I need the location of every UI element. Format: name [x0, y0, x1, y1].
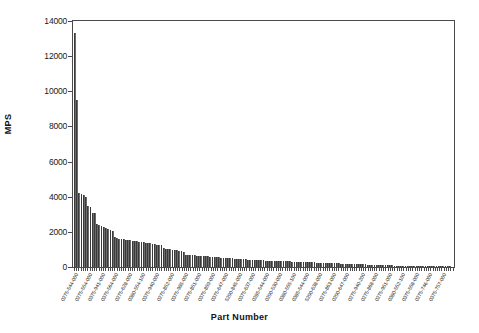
x-tick-mark [356, 268, 357, 271]
x-tick-mark [419, 268, 420, 271]
y-tick-label: 2000 [49, 228, 67, 236]
x-tick-mark [354, 268, 355, 271]
x-tick-mark [439, 268, 440, 271]
x-tick-mark [291, 268, 292, 271]
x-tick-mark [273, 268, 274, 271]
x-tick-mark [435, 268, 436, 271]
x-tick-mark [224, 268, 225, 271]
x-tick-mark [390, 268, 391, 271]
x-tick-mark [311, 268, 312, 271]
x-tick-mark [316, 268, 317, 271]
x-tick-mark [383, 268, 384, 271]
x-tick-mark [408, 268, 409, 271]
x-tick-mark [238, 268, 239, 271]
x-tick-mark [309, 268, 310, 271]
x-tick-mark [453, 268, 454, 271]
x-tick-mark [287, 268, 288, 271]
x-tick-mark [412, 268, 413, 271]
x-tick-mark [450, 268, 451, 271]
x-tick-mark [190, 268, 191, 271]
x-tick-mark [305, 268, 306, 271]
x-tick-mark [108, 268, 109, 271]
x-axis-title: Part Number [0, 312, 479, 322]
x-tick-mark [134, 268, 135, 271]
x-tick-mark [170, 268, 171, 271]
x-tick-mark [289, 268, 290, 271]
y-axis: 02000400060008000100001200014000 [0, 0, 72, 288]
x-tick-mark [363, 268, 364, 271]
x-tick-mark [258, 268, 259, 271]
x-tick-mark [139, 268, 140, 271]
x-tick-mark [81, 268, 82, 271]
x-tick-mark [372, 268, 373, 271]
x-tick-mark [336, 268, 337, 271]
x-axis-labels: 0275-544-0000275-554-0000375-941-0000375… [72, 272, 455, 312]
x-tick-mark [123, 268, 124, 271]
x-tick-mark [92, 268, 93, 271]
x-tick-mark [318, 268, 319, 271]
x-tick-mark [217, 268, 218, 271]
x-tick-mark [320, 268, 321, 271]
x-tick-mark [85, 268, 86, 271]
x-tick-mark [226, 268, 227, 271]
x-tick-mark [177, 268, 178, 271]
x-tick-mark [334, 268, 335, 271]
x-tick-mark [282, 268, 283, 271]
x-tick-mark [130, 268, 131, 271]
x-tick-mark [329, 268, 330, 271]
y-tick-label: 8000 [49, 122, 67, 130]
x-tick-mark [278, 268, 279, 271]
x-tick-mark [186, 268, 187, 271]
x-tick-mark [175, 268, 176, 271]
bar [449, 266, 451, 267]
x-tick-mark [101, 268, 102, 271]
x-tick-mark [211, 268, 212, 271]
x-tick-mark [262, 268, 263, 271]
x-tick-mark [240, 268, 241, 271]
x-tick-mark [94, 268, 95, 271]
x-tick-mark [374, 268, 375, 271]
x-tick-mark [323, 268, 324, 271]
x-tick-mark [213, 268, 214, 271]
x-tick-mark [433, 268, 434, 271]
x-tick-mark [307, 268, 308, 271]
x-tick-mark [406, 268, 407, 271]
x-tick-mark [112, 268, 113, 271]
x-tick-mark [199, 268, 200, 271]
x-tick-mark [233, 268, 234, 271]
x-tick-mark [155, 268, 156, 271]
x-tick-mark [417, 268, 418, 271]
x-tick-mark [298, 268, 299, 271]
x-tick-mark [117, 268, 118, 271]
x-tick-mark [430, 268, 431, 271]
x-tick-mark [403, 268, 404, 271]
x-tick-mark [168, 268, 169, 271]
x-tick-mark [231, 268, 232, 271]
x-tick-mark [426, 268, 427, 271]
x-tick-mark [173, 268, 174, 271]
x-tick-mark [397, 268, 398, 271]
x-tick-mark [121, 268, 122, 271]
x-tick-mark [99, 268, 100, 271]
x-tick-mark [119, 268, 120, 271]
x-tick-mark [103, 268, 104, 271]
x-tick-mark [188, 268, 189, 271]
x-tick-mark [157, 268, 158, 271]
x-tick-mark [327, 268, 328, 271]
x-tick-mark [338, 268, 339, 271]
x-tick-mark [264, 268, 265, 271]
x-tick-mark [365, 268, 366, 271]
x-tick-mark [222, 268, 223, 271]
x-tick-mark [244, 268, 245, 271]
x-tick-mark [343, 268, 344, 271]
x-tick-mark [437, 268, 438, 271]
x-tick-mark [446, 268, 447, 271]
x-tick-mark [202, 268, 203, 271]
x-tick-mark [359, 268, 360, 271]
x-tick-mark [110, 268, 111, 271]
x-tick-mark [285, 268, 286, 271]
x-tick-mark [388, 268, 389, 271]
x-tick-mark [90, 268, 91, 271]
x-tick-mark [114, 268, 115, 271]
x-tick-mark [294, 268, 295, 271]
